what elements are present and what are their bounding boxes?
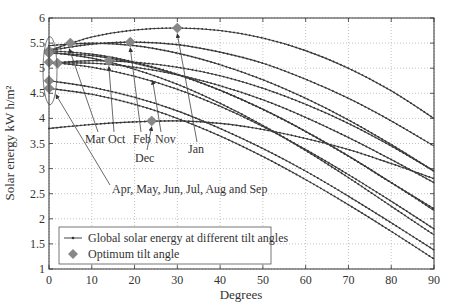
series-dot (303, 49, 305, 51)
series-dot (187, 55, 189, 57)
series-dot (199, 58, 201, 60)
series-dot (232, 133, 234, 135)
series-dot (60, 44, 62, 46)
series-dot (226, 87, 228, 89)
series-dot (115, 63, 117, 65)
series-dot (207, 100, 209, 102)
series-dot (237, 111, 239, 113)
series-dot (96, 55, 98, 57)
series-dot (374, 194, 376, 196)
series-dot (391, 163, 393, 165)
series-dot (154, 102, 156, 104)
series-dot (111, 91, 113, 93)
series-dot (171, 43, 173, 45)
series-dot (315, 121, 317, 123)
series-dot (76, 60, 78, 62)
series-dot (338, 189, 340, 191)
series-dot (339, 118, 341, 120)
series-dot (169, 115, 171, 117)
series-dot (151, 66, 153, 68)
series-dot (103, 89, 105, 91)
series-dot (348, 196, 350, 198)
series-dot (318, 104, 320, 106)
annotations: Mar OctFebNovDecJanApr, May, Jun, Jul, A… (43, 34, 267, 196)
series-dot (324, 162, 326, 164)
series-dot (265, 63, 267, 65)
series-dot (269, 65, 271, 67)
series-dot (405, 191, 407, 193)
series-dot (305, 131, 307, 133)
series-dot (155, 67, 157, 69)
series-dot (389, 119, 391, 121)
series-dot (142, 106, 144, 108)
y-tick-label: 5.5 (30, 36, 45, 50)
series-dot (246, 58, 248, 60)
series-dot (310, 181, 312, 183)
series-dot (224, 123, 226, 125)
series-dot (199, 126, 201, 128)
series-dot (402, 150, 404, 152)
series-dot (230, 94, 232, 96)
series-dot (193, 28, 195, 30)
series-dot (90, 36, 92, 38)
series-dot (398, 148, 400, 150)
series-dot (415, 159, 417, 161)
series-dot (127, 74, 129, 76)
series-dot (326, 126, 328, 128)
series-dot (261, 62, 263, 64)
series-dot (324, 160, 326, 162)
series-dot (160, 70, 162, 72)
series-dot (286, 138, 288, 140)
series-dot (428, 176, 430, 178)
series-dot (76, 43, 78, 45)
series-dot (121, 31, 123, 33)
series-dot (354, 208, 356, 210)
series-dot (291, 134, 293, 136)
series-dot (368, 133, 370, 135)
series-dot (425, 204, 427, 206)
series-dot (200, 121, 202, 123)
series-dot (295, 99, 297, 101)
series-dot (131, 96, 133, 98)
series-dot (371, 218, 373, 220)
y-tick-label: 3 (39, 162, 45, 176)
series-dot (397, 210, 399, 212)
series-dot (339, 93, 341, 95)
series-dot (277, 67, 279, 69)
series-dot (100, 95, 102, 97)
series-dot (395, 233, 397, 235)
series-dot (403, 127, 405, 129)
series-dot (120, 43, 122, 45)
series-dot (346, 122, 348, 124)
series-dot (203, 71, 205, 73)
series-dot (368, 155, 370, 157)
series-dot (221, 106, 223, 108)
series-dot (282, 166, 284, 168)
series-dot (316, 185, 318, 187)
series-dot (64, 44, 66, 46)
series-dot (244, 126, 246, 128)
series-dot (314, 53, 316, 55)
series-dot (223, 76, 225, 78)
series-dot (288, 71, 290, 73)
series-dot (341, 191, 343, 193)
series-dot (103, 96, 105, 98)
series-dot (291, 73, 293, 75)
series-dot (169, 27, 171, 29)
series-dot (362, 74, 364, 76)
series-dot (68, 51, 70, 53)
series-dot (351, 206, 353, 208)
series-dot (115, 71, 117, 73)
series-dot (313, 175, 315, 177)
series-dot (64, 82, 66, 84)
series-dot (219, 75, 221, 77)
series-dot (404, 215, 406, 217)
series-dot (381, 176, 383, 178)
series-dot (127, 102, 129, 104)
series-dot (210, 61, 212, 63)
series-dot (276, 41, 278, 43)
series-dot (164, 64, 166, 66)
series-dot (353, 125, 355, 127)
legend: Global solar energy at different tilt an… (59, 227, 288, 264)
series-dot (84, 44, 86, 46)
